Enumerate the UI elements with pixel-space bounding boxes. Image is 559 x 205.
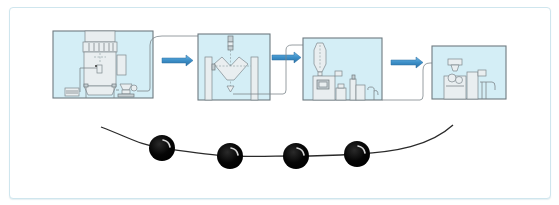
stage-2-panel: [198, 34, 270, 100]
process-flow-diagram: [0, 0, 559, 205]
bead-4: [344, 141, 370, 167]
flow-arrow-3: [391, 57, 423, 68]
bead-1: [149, 135, 175, 161]
bead-3: [283, 143, 309, 169]
flow-arrow-1: [162, 55, 193, 66]
stage-3-panel: [303, 38, 382, 100]
bead-string: [101, 125, 453, 169]
stage-4-panel: [432, 46, 506, 99]
bead-2: [217, 143, 243, 169]
flow-arrow-2: [272, 52, 301, 63]
